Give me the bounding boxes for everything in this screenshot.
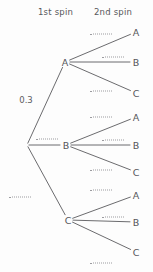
branch-probability-blank-C-A[interactable] — [90, 190, 112, 191]
tree-edges — [0, 0, 153, 272]
header-second-spin: 2nd spin — [94, 7, 132, 17]
branch-probability-blank-A-A[interactable] — [90, 34, 112, 35]
node-label-A1B: B — [133, 57, 140, 68]
branch-probability-blank-B-B[interactable] — [102, 140, 124, 141]
node-label-A1C: C — [133, 88, 140, 99]
node-label-B1: B — [63, 140, 70, 151]
tree-branch-C-B — [73, 220, 130, 222]
tree-branch-r-A — [28, 67, 63, 143]
tree-branch-r-C — [28, 147, 65, 215]
tree-branch-A-C — [70, 64, 131, 91]
tree-branch-C-A — [73, 197, 131, 218]
header-first-spin: 1st spin — [38, 7, 73, 17]
branch-probability-r-A: 0.3 — [19, 95, 33, 105]
node-label-B1A: A — [133, 112, 140, 123]
branch-probability-blank-A-C[interactable] — [90, 91, 112, 92]
branch-probability-blank-C-B[interactable] — [102, 217, 124, 218]
node-label-C1A: A — [133, 190, 140, 201]
node-label-C1B: B — [133, 217, 140, 228]
branch-probability-blank-B-C[interactable] — [90, 170, 112, 171]
branch-probability-blank-r-B[interactable] — [36, 139, 58, 140]
tree-branch-B-C — [71, 147, 131, 170]
branch-probability-blank-C-C[interactable] — [90, 263, 112, 264]
branch-probability-blank-B-A[interactable] — [90, 117, 112, 118]
node-label-B1C: C — [133, 167, 140, 178]
probability-tree-diagram: 1st spin 2nd spin ABCABCABCABC0.3 — [0, 0, 153, 272]
node-label-C1: C — [65, 215, 72, 226]
tree-branch-C-C — [73, 222, 131, 249]
node-label-C1C: C — [133, 247, 140, 258]
branch-probability-blank-A-B[interactable] — [102, 57, 124, 58]
node-label-A1A: A — [133, 27, 140, 38]
node-label-A1: A — [62, 57, 69, 68]
node-label-B1B: B — [133, 140, 140, 151]
branch-probability-blank-r-C[interactable] — [9, 197, 31, 198]
